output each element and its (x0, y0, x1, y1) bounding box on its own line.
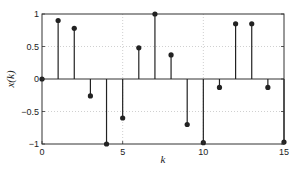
y-tick-label: 0 (34, 74, 39, 84)
x-tick-label: 0 (39, 147, 44, 157)
stem-point (168, 52, 173, 79)
stem-point (152, 11, 157, 79)
stem-point (201, 79, 206, 145)
stem-point (72, 26, 77, 79)
x-tick-label: 5 (120, 147, 125, 157)
y-tick-label: 1 (34, 9, 39, 19)
x-axis-label: k (161, 153, 167, 165)
stem-point (217, 79, 222, 90)
stem-plot: 051015 −1−0.500.51 k x(k) (0, 0, 293, 169)
x-tick-label: 10 (198, 147, 208, 157)
stem-point (120, 79, 125, 121)
stem-point (136, 45, 141, 79)
stem-point (185, 79, 190, 127)
stem-point (233, 21, 238, 79)
y-axis-label: x(k) (4, 70, 17, 88)
stem-point (88, 79, 93, 99)
stem-point (56, 18, 61, 79)
y-tick-label: −0.5 (21, 107, 39, 117)
x-tick-label: 15 (279, 147, 289, 157)
y-tick-label: 0.5 (26, 42, 39, 52)
stem-point (249, 21, 254, 79)
stem-point (265, 79, 270, 90)
y-tick-label: −1 (29, 139, 39, 149)
stem-point (104, 79, 109, 147)
